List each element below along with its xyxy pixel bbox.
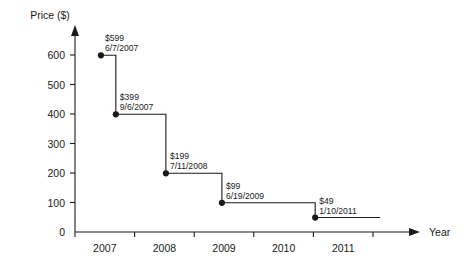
data-point-marker: [163, 170, 169, 176]
annotation-price: $599: [105, 33, 124, 43]
data-point-marker: [113, 111, 119, 117]
annotation-price: $99: [226, 181, 241, 191]
annotation-price: $199: [170, 151, 189, 161]
annotation-date: 6/7/2007: [105, 43, 139, 53]
x-tick-label: 2011: [332, 242, 355, 254]
annotation-date: 6/19/2009: [226, 191, 264, 201]
x-axis-arrow-icon: [409, 228, 420, 236]
y-tick-label: 0: [59, 226, 65, 238]
data-point-marker: [219, 200, 225, 206]
data-point-marker: [98, 52, 104, 58]
x-tick-label: 2010: [272, 242, 296, 254]
y-axis-title: Price ($): [30, 9, 70, 21]
y-tick-label: 100: [47, 197, 65, 209]
data-point-annotations: $5996/7/2007$3999/6/2007$1997/11/2008$99…: [105, 33, 357, 215]
y-tick-label: 400: [47, 108, 65, 120]
y-tick-label: 300: [47, 138, 65, 150]
annotation-price: $49: [319, 196, 334, 206]
y-axis-arrow-icon: [71, 25, 79, 36]
annotation-date: 1/10/2011: [319, 206, 357, 216]
price-history-chart: Price ($) Year 0100200300400500600 20072…: [0, 0, 464, 271]
x-tick-label: 2008: [153, 242, 177, 254]
data-point-markers: [98, 52, 318, 220]
x-axis-ticks: 20072008200920102011: [75, 232, 373, 254]
annotation-date: 9/6/2007: [120, 102, 154, 112]
y-tick-label: 500: [47, 79, 65, 91]
y-tick-label: 200: [47, 167, 65, 179]
annotation-price: $399: [120, 92, 139, 102]
chart-canvas: Price ($) Year 0100200300400500600 20072…: [0, 0, 464, 271]
x-tick-label: 2009: [212, 242, 236, 254]
x-tick-label: 2007: [93, 242, 117, 254]
annotation-date: 7/11/2008: [170, 161, 208, 171]
x-axis-title: Year: [429, 226, 451, 238]
data-point-marker: [312, 214, 318, 220]
y-tick-label: 600: [47, 49, 65, 61]
y-axis-ticks: 0100200300400500600: [47, 49, 75, 238]
